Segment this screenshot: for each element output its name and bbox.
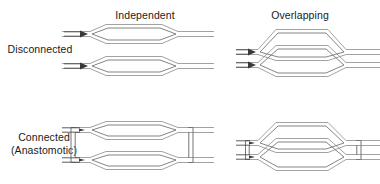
column-header-overlapping: Overlapping [255, 9, 345, 21]
vessel-upper-outer-top [76, 122, 214, 128]
vessel-upper-outer-top [250, 123, 380, 141]
vessel-lower-outer-top [236, 46, 380, 63]
inflow-arrow-upper-icon [62, 128, 85, 132]
panel-connected-independent [62, 120, 214, 172]
anastomosis-connector-right [356, 141, 361, 160]
vessel-lower-lumen [92, 155, 176, 166]
vessel-upper-outer-top [236, 30, 380, 50]
vessel-upper-lumen [92, 125, 176, 136]
panel-connected-overlapping [236, 120, 380, 174]
vessel-lower-outer-bottom [250, 160, 380, 171]
panel-disconnected-independent [62, 22, 214, 82]
vessel-lower-lumen [92, 60, 176, 72]
vessel-upper-lumen [260, 126, 344, 149]
vessel-upper-outer-bottom [236, 55, 380, 61]
column-header-independent: Independent [100, 9, 190, 21]
vascular-network-figure: Independent Overlapping Disconnected Con… [0, 0, 380, 184]
vessel-lower-outer-bottom [236, 68, 380, 77]
inflow-arrow-lower-icon [62, 158, 85, 162]
anastomosis-connector-left [71, 128, 76, 163]
vessel-upper-lumen [92, 28, 176, 40]
panel-disconnected-overlapping [236, 27, 380, 79]
vessel-lower-lumen [260, 49, 344, 73]
vessel-lower-lumen [260, 142, 344, 167]
